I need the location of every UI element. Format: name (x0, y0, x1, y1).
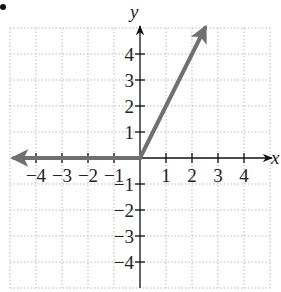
y-tick-label: −1 (114, 174, 134, 195)
x-tick-label: 3 (213, 165, 223, 186)
x-tick-label: 4 (239, 165, 249, 186)
coordinate-plane: −4−3−2−11234 4321−1−2−3−4 x y (0, 0, 281, 292)
y-tick-label: −4 (114, 252, 135, 273)
y-tick-label: −2 (114, 200, 134, 221)
y-tick-label: 4 (125, 44, 135, 65)
graph-line (14, 28, 205, 158)
y-tick-label: 2 (125, 96, 135, 117)
y-axis-label: y (128, 1, 139, 22)
x-tick-label: 2 (187, 165, 197, 186)
x-tick-label: −3 (52, 165, 72, 186)
x-tick-label: 1 (161, 165, 171, 186)
x-axis-label: x (270, 147, 280, 168)
y-tick-label: −3 (114, 226, 134, 247)
x-tick-label: −4 (26, 165, 47, 186)
x-tick-label: −2 (78, 165, 98, 186)
y-tick-label: 1 (125, 122, 135, 143)
y-tick-label: 3 (125, 70, 135, 91)
x-tick-labels: −4−3−2−11234 (26, 165, 249, 186)
